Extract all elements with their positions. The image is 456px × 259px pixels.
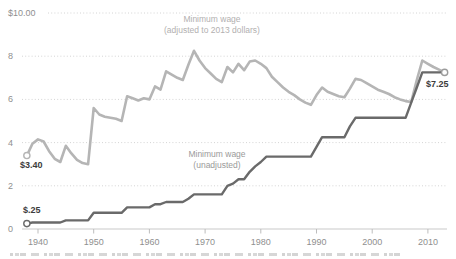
minimum-wage-chart: $10.0086420 1940195019601970198019902000… xyxy=(0,0,456,259)
x-tick-label-1940: 1940 xyxy=(28,237,48,247)
adjusted-series-label: Minimum wage (adjusted to 2013 dollars) xyxy=(147,14,277,35)
adjusted-series-label-line2: (adjusted to 2013 dollars) xyxy=(147,25,277,36)
x-tick-label-1970: 1970 xyxy=(195,237,215,247)
unadjusted-series-label: Minimum wage (unadjusted) xyxy=(152,149,282,170)
y-tick-label-6: 6 xyxy=(8,94,13,104)
y-tick-label-0: 0 xyxy=(8,224,13,234)
data-point-marker-0 xyxy=(24,152,30,158)
x-tick-label-2000: 2000 xyxy=(362,237,382,247)
adjusted-series-label-line1: Minimum wage xyxy=(147,14,277,25)
x-tick-label-1950: 1950 xyxy=(84,237,104,247)
data-point-marker-2 xyxy=(442,69,448,75)
data-point-marker-1 xyxy=(24,221,30,227)
y-tick-label-2: 2 xyxy=(8,181,13,191)
unadjusted-start-value-label: $.25 xyxy=(23,205,41,215)
x-tick-label-2010: 2010 xyxy=(418,237,438,247)
adjusted-wage-line xyxy=(27,51,445,164)
y-tick-label-4: 4 xyxy=(8,138,13,148)
x-tick-label-1980: 1980 xyxy=(251,237,271,247)
x-tick-label-1960: 1960 xyxy=(139,237,159,247)
y-tick-label-8: 8 xyxy=(8,51,13,61)
adjusted-start-value-label: $3.40 xyxy=(20,160,43,170)
end-value-label: $7.25 xyxy=(426,79,449,89)
x-tick-label-1990: 1990 xyxy=(306,237,326,247)
chart-canvas xyxy=(0,0,456,259)
unadjusted-series-label-line2: (unadjusted) xyxy=(152,160,282,171)
cropped-source-caption xyxy=(10,253,402,256)
y-tick-label-10: $10.00 xyxy=(8,8,36,18)
unadjusted-series-label-line1: Minimum wage xyxy=(152,149,282,160)
